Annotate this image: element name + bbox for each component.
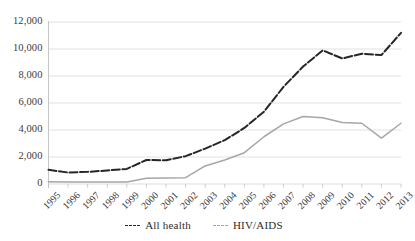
y-tick-label: 10,000: [13, 43, 42, 54]
legend-item[interactable]: All health: [125, 219, 191, 231]
series-hiv-aids: [49, 117, 402, 183]
y-tick-label: 2,000: [18, 151, 42, 162]
y-tick-label: 8,000: [18, 70, 42, 81]
y-tick-label: 12,000: [13, 16, 42, 27]
legend-item[interactable]: HIV/AIDS: [213, 219, 283, 231]
legend-label: HIV/AIDS: [233, 219, 283, 231]
y-tick-label: 0: [37, 178, 42, 189]
legend-line-swatch: [213, 225, 228, 226]
chart-legend: All healthHIV/AIDS: [0, 219, 408, 231]
x-tick-marks: [49, 184, 402, 188]
legend-label: All health: [145, 219, 191, 231]
legend-line-swatch: [125, 225, 140, 226]
y-tick-label: 6,000: [18, 97, 42, 108]
data-series-lines: [49, 33, 402, 182]
y-tick-label: 4,000: [18, 124, 42, 135]
